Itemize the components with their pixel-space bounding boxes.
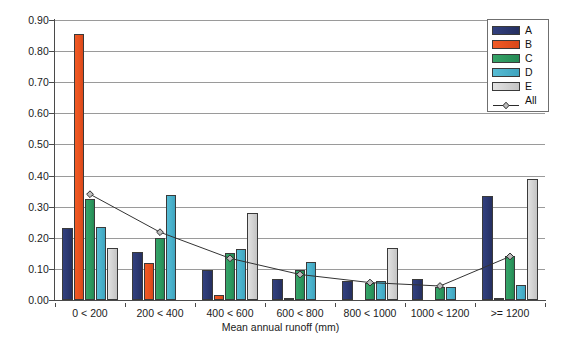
bar-a: [412, 279, 423, 300]
bar-c: [155, 238, 166, 300]
legend-item-c[interactable]: C: [492, 52, 544, 65]
bar-b: [144, 263, 155, 300]
bar-a: [132, 252, 143, 300]
y-tick-label: 0.90: [5, 14, 49, 26]
bar-b: [284, 298, 295, 300]
legend-label: C: [525, 53, 533, 64]
bar-e: [247, 213, 258, 300]
bar-d: [446, 287, 457, 300]
bar-e: [387, 248, 398, 300]
bar-c: [505, 256, 516, 300]
bar-c: [295, 270, 306, 300]
y-tick-label: 0.70: [5, 76, 49, 88]
bar-group: [272, 20, 327, 300]
bar-c: [225, 253, 236, 300]
bar-b: [494, 298, 505, 300]
legend-line-marker-icon: [492, 96, 520, 105]
legend-item-d[interactable]: D: [492, 66, 544, 79]
legend-swatch-icon: [492, 54, 520, 63]
x-axis-tick-labels: 0 < 200200 < 400400 < 600600 < 800800 < …: [55, 303, 545, 323]
bar-group: [132, 20, 187, 300]
x-axis-title: Mean annual runoff (mm): [0, 321, 561, 333]
legend-label: B: [525, 39, 532, 50]
x-tick-mark: [545, 303, 546, 307]
bar-e: [107, 248, 118, 300]
legend: ABCDEAll: [487, 19, 549, 112]
x-tick-label: 800 < 1000: [344, 307, 397, 319]
legend-swatch-icon: [492, 68, 520, 77]
chart-container: 0.000.100.200.300.400.500.600.700.800.90…: [0, 0, 561, 345]
y-tick-label: 0.40: [5, 170, 49, 182]
bar-group: [202, 20, 257, 300]
bar-a: [342, 281, 353, 300]
bar-c: [85, 199, 96, 300]
x-tick-mark: [195, 303, 196, 307]
bar-group: [342, 20, 397, 300]
y-tick-label: 0.00: [5, 294, 49, 306]
bar-d: [376, 281, 387, 300]
legend-label: D: [525, 67, 533, 78]
legend-item-a[interactable]: A: [492, 24, 544, 37]
bar-d: [516, 285, 527, 300]
bar-c: [435, 287, 446, 300]
bar-e: [527, 179, 538, 300]
y-tick-label: 0.20: [5, 232, 49, 244]
x-tick-mark: [335, 303, 336, 307]
plot-area: [55, 20, 545, 300]
bar-group: [412, 20, 467, 300]
x-tick-label: 0 < 200: [72, 307, 107, 319]
bar-group: [62, 20, 117, 300]
y-tick-label: 0.60: [5, 107, 49, 119]
x-tick-mark: [55, 303, 56, 307]
legend-swatch-icon: [492, 40, 520, 49]
x-tick-label: 1000 < 1200: [411, 307, 470, 319]
bar-b: [214, 295, 225, 300]
bar-d: [96, 227, 107, 300]
bar-a: [62, 228, 73, 300]
x-tick-mark: [265, 303, 266, 307]
legend-label: All: [525, 95, 537, 106]
legend-label: E: [525, 81, 532, 92]
bar-d: [306, 262, 317, 300]
bar-groups: [55, 20, 545, 300]
bar-a: [272, 279, 283, 300]
y-axis-tick-labels: 0.000.100.200.300.400.500.600.700.800.90: [0, 20, 49, 300]
y-tick-label: 0.50: [5, 138, 49, 150]
y-tick-label: 0.80: [5, 45, 49, 57]
legend-swatch-icon: [492, 26, 520, 35]
x-tick-label: >= 1200: [491, 307, 530, 319]
legend-swatch-icon: [492, 82, 520, 91]
legend-label: A: [525, 25, 532, 36]
x-tick-mark: [405, 303, 406, 307]
bar-a: [202, 270, 213, 300]
x-tick-label: 600 < 800: [276, 307, 323, 319]
bar-b: [74, 34, 85, 300]
x-tick-label: 200 < 400: [136, 307, 183, 319]
bar-a: [482, 196, 493, 300]
x-tick-mark: [125, 303, 126, 307]
y-tick-label: 0.10: [5, 263, 49, 275]
legend-item-all[interactable]: All: [492, 94, 544, 107]
x-tick-mark: [475, 303, 476, 307]
gridline: [55, 300, 545, 301]
bar-d: [236, 249, 247, 300]
bar-d: [166, 195, 177, 300]
legend-item-b[interactable]: B: [492, 38, 544, 51]
x-tick-label: 400 < 600: [206, 307, 253, 319]
y-tick-label: 0.30: [5, 201, 49, 213]
bar-c: [365, 283, 376, 300]
legend-item-e[interactable]: E: [492, 80, 544, 93]
